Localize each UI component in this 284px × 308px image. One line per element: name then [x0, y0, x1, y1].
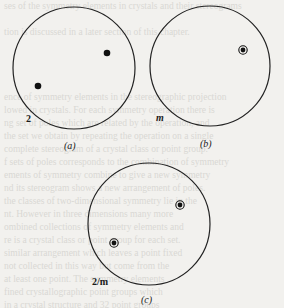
stereogram-b [150, 6, 270, 126]
primitive-circle [150, 6, 270, 126]
symmetry-label-c: 2/m [92, 276, 108, 287]
pole-dot-icon [112, 241, 117, 246]
pole-dot-icon [35, 83, 42, 90]
caption-b: (b) [200, 138, 212, 149]
pole-dot-icon [178, 203, 183, 208]
primitive-circle [13, 7, 135, 129]
caption-a: (a) [64, 140, 76, 151]
stereogram-c [88, 163, 210, 285]
symmetry-label-a: 2 [26, 113, 31, 124]
pole-dot-icon [104, 50, 111, 57]
pole-dot-icon [241, 48, 246, 53]
primitive-circle [88, 163, 210, 285]
stereogram-figure [0, 0, 284, 308]
symmetry-label-b: m [156, 112, 164, 123]
stereogram-a [13, 7, 135, 129]
caption-c: (c) [141, 294, 152, 305]
